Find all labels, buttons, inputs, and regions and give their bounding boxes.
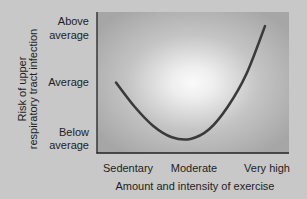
y-tick-label-below-average-line1: Below [59,126,89,138]
x-tick-label-sedentary: Sedentary [103,162,154,174]
y-axis-title-line2: respiratory tract infection [27,29,39,149]
y-tick-label-above-average-line2: average [49,29,89,41]
chart: Above average Average Below average Sede… [0,0,307,199]
x-axis-title: Amount and intensity of exercise [116,180,275,192]
y-tick-label-average: Average [48,76,89,88]
y-tick-label-below-average-line2: average [49,139,89,151]
x-tick-label-very-high: Very high [244,162,290,174]
plot-area [97,12,289,153]
y-tick-label-above-average-line1: Above [58,15,89,27]
x-tick-label-moderate: Moderate [171,162,217,174]
